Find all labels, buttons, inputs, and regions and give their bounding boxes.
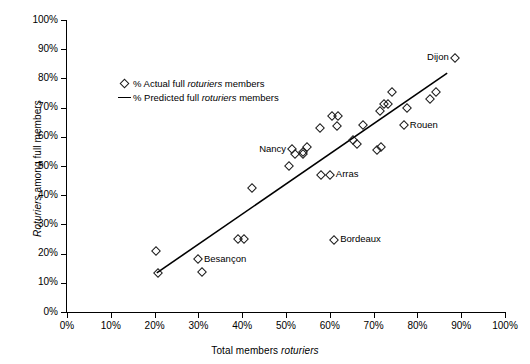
chart-legend: % Actual full roturiers members % Predic… [116,76,321,104]
y-tick [61,49,66,50]
data-point-marker [197,267,207,277]
legend-item-predicted-label: % Predicted full roturiers members [133,92,279,103]
x-tick [505,313,506,318]
legend-item-actual: % Actual full roturiers members [116,76,321,90]
y-tick [61,224,66,225]
x-tick-label: 30% [178,320,218,331]
y-tick [61,166,66,167]
data-point-marker [193,254,203,264]
x-tick [286,313,287,318]
point-label-rouen: Rouen [410,119,438,130]
data-point-marker [329,235,339,245]
legend-item-actual-label: % Actual full roturiers members [133,78,264,89]
data-point-marker [284,161,294,171]
y-tick-label: 100% [18,14,58,25]
x-tick-label: 40% [222,320,262,331]
y-tick [61,137,66,138]
y-tick [61,312,66,313]
scatter-chart: 0%10%20%30%40%50%60%70%80%90%100% 0%10%2… [0,0,530,364]
x-tick [330,313,331,318]
y-tick [61,254,66,255]
x-tick [417,313,418,318]
data-point-marker [450,53,460,63]
x-tick [374,313,375,318]
point-label-arras: Arras [336,168,359,179]
data-point-marker [387,87,397,97]
predicted-trend-line [0,0,530,364]
x-tick [242,313,243,318]
point-label-besanon: Besançon [204,253,246,264]
point-label-dijon: Dijon [427,51,449,62]
x-tick-label: 10% [91,320,131,331]
data-point-marker [399,120,409,130]
data-point-marker [358,120,368,130]
x-tick [198,313,199,318]
line-swatch-icon [116,97,132,98]
point-label-nancy: Nancy [259,143,286,154]
data-point-marker [333,111,343,121]
data-point-marker [315,123,325,133]
y-tick [61,20,66,21]
x-tick-label: 90% [441,320,481,331]
y-tick [61,195,66,196]
data-point-marker [325,170,335,180]
x-tick-label: 100% [485,320,525,331]
y-tick [61,108,66,109]
x-tick-label: 50% [266,320,306,331]
data-point-marker [431,87,441,97]
data-point-marker [151,246,161,256]
data-point-marker [247,183,257,193]
x-tick [67,313,68,318]
y-axis-line [66,20,67,313]
legend-item-predicted: % Predicted full roturiers members [116,90,321,104]
x-tick [111,313,112,318]
x-tick-label: 80% [397,320,437,331]
data-point-marker [332,121,342,131]
y-tick-label: 0% [18,306,58,317]
y-tick [61,78,66,79]
data-point-marker [153,268,163,278]
data-point-marker [402,103,412,113]
x-tick [155,313,156,318]
x-tick-label: 70% [354,320,394,331]
x-tick-label: 60% [310,320,350,331]
x-tick-label: 20% [135,320,175,331]
x-tick-label: 0% [47,320,87,331]
y-axis-title: Roturiers among full members [32,49,43,289]
open-diamond-icon [116,80,132,87]
point-label-bordeaux: Bordeaux [340,233,381,244]
x-tick [461,313,462,318]
y-tick [61,283,66,284]
x-axis-title: Total members roturiers [0,345,530,356]
data-point-marker [352,139,362,149]
